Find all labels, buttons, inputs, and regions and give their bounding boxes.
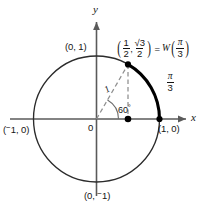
x-fraction-denominator: 2 [123,48,130,59]
open-paren-icon: ( [117,41,121,56]
arc-length-fraction: π 3 [167,72,174,93]
equals-sign: = [154,44,160,54]
angle-arc-marker [108,100,119,119]
y-coordinate-fraction: √3 2 [133,38,146,59]
point-coordinate-equation-label: ( 1 2 , √3 2 ) = W ( π 3 ) [116,38,190,59]
point-half-zero-dot [125,116,132,123]
arg-close-paren-icon: ) [185,41,189,56]
arc-length-label: π 3 [166,72,174,93]
figure-canvas [0,0,212,211]
y-axis-label: y [93,4,98,15]
arc-fraction-denominator: 3 [167,82,174,93]
square-root-three-icon: √3 [133,38,146,48]
y-fraction-denominator: 2 [136,48,143,59]
argument-numerator: π [177,38,184,48]
point-on-circle-dot [125,61,131,67]
coordinate-bottom-value: 1) [102,190,110,201]
point-one-zero-dot [156,116,162,122]
y-axis-arrowhead [93,22,100,30]
x-coordinate-fraction: 1 2 [123,38,130,59]
arc-fraction-numerator: π [167,72,174,82]
coordinate-label-left: (−1, 0) [3,124,29,134]
coordinate-label-right: (1, 0) [158,124,180,134]
coordinate-label-top: (0, 1) [65,42,87,52]
x-axis-label: x [191,112,196,123]
angle-measure-label: 60° [118,104,131,115]
wrapping-function-name: W [162,44,170,54]
close-paren-icon: ) [148,41,152,56]
unit-circle-figure: y x (0, 1) (−1, 0) (1, 0) (0, −1) 0 1 60… [0,0,212,211]
coordinate-left-value: 1, 0) [11,124,30,135]
x-fraction-numerator: 1 [123,38,130,48]
function-argument-fraction: π 3 [176,38,183,59]
highlighted-arc [128,64,160,119]
argument-denominator: 3 [176,48,183,59]
arg-open-paren-icon: ( [171,41,175,56]
degree-symbol-icon: ° [128,104,131,111]
coordinate-label-bottom: (0, −1) [84,190,110,200]
coordinate-bottom-open: (0, [84,190,97,201]
x-axis-arrowhead [178,116,186,123]
angle-value: 60 [118,105,128,115]
origin-label: 0 [88,123,93,133]
